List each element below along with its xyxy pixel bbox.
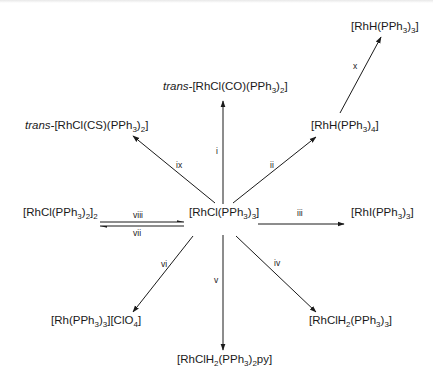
compound-rhcl-cs: trans-[RhCl(CS)(PPh3)2] (25, 118, 148, 132)
compound-rhclh2-py: [RhClH2(PPh3)2py] (177, 352, 272, 366)
label-vii: vii (133, 228, 141, 238)
arrow-iv (236, 236, 316, 312)
label-ii: ii (270, 160, 274, 170)
arrow-ix (133, 136, 215, 203)
reaction-arrows (0, 0, 433, 387)
compound-rhcl-co: trans-[RhCl(CO)(PPh3)2] (163, 79, 288, 93)
label-iii: iii (297, 208, 303, 218)
label-i: i (216, 146, 218, 156)
compound-rhh-pph3-4: [RhH(PPh3)4] (311, 118, 379, 132)
label-ix: ix (176, 160, 182, 170)
label-v: v (214, 275, 218, 285)
compound-rhclh2-pph3-3: [RhClH2(PPh3)3] (309, 313, 392, 327)
compound-rh-clo4: [Rh(PPh3)3][ClO4] (51, 313, 141, 327)
arrow-x (340, 37, 381, 113)
label-x: x (353, 61, 357, 71)
label-viii: viii (133, 210, 143, 220)
arrow-ii (233, 137, 316, 203)
compound-rhcl-dimer: [RhCl(PPh3)2]2 (23, 205, 98, 219)
arrow-vi (133, 236, 193, 312)
compound-center: [RhCl(PPh3)3] (189, 205, 259, 219)
label-vi: vi (161, 259, 167, 269)
compound-rhi: [RhI(PPh3)3] (351, 205, 414, 219)
label-iv: iv (274, 258, 280, 268)
compound-rhh-pph3-3: [RhH(PPh3)3] (351, 19, 419, 33)
